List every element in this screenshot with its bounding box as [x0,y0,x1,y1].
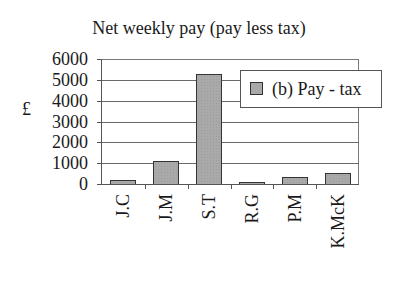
x-tick-label-text: P.M [285,194,305,223]
legend-swatch [250,82,263,95]
y-tick-label: 2000 [52,133,88,151]
y-tick-mark [97,184,102,185]
x-tick-label-text: J.M [156,194,176,222]
x-tick-label-text: K.McK [328,194,348,249]
y-tick-mark [97,163,102,164]
y-tick-label: 6000 [52,50,88,68]
x-tick-label-text: J.C [113,194,133,218]
x-tick-label: S.T [199,194,219,274]
legend-label: (b) Pay - tax [272,79,361,99]
legend: (b) Pay - tax [240,70,382,108]
x-tick-label-text: S.T [199,194,219,220]
y-tick-label: 0 [79,175,88,193]
y-tick-mark [97,142,102,143]
y-tick-label: 3000 [52,113,88,131]
x-tick-mark [316,184,317,189]
y-tick-mark [97,122,102,123]
gridline [102,163,359,164]
x-tick-label-text: R.G [242,194,262,224]
x-tick-mark [145,184,146,189]
y-tick-label: 1000 [52,154,88,172]
bar-s-t [196,74,222,185]
gridline [102,142,359,143]
x-tick-label: K.McK [328,194,348,274]
y-tick-mark [97,80,102,81]
x-tick-mark [273,184,274,189]
y-tick-label: 4000 [52,92,88,110]
y-axis-label: £ [22,99,31,120]
bar-j-m [153,161,179,185]
x-tick-label: P.M [285,194,305,274]
x-tick-label: J.M [156,194,176,274]
y-tick-mark [97,59,102,60]
x-tick-label: R.G [242,194,262,274]
x-axis-line [101,184,359,185]
y-tick-mark [97,101,102,102]
chart-title: Net weekly pay (pay less tax) [0,18,398,39]
gridline [102,122,359,123]
x-tick-mark [231,184,232,189]
x-tick-label: J.C [113,194,133,274]
y-tick-label: 5000 [52,71,88,89]
x-tick-mark [188,184,189,189]
